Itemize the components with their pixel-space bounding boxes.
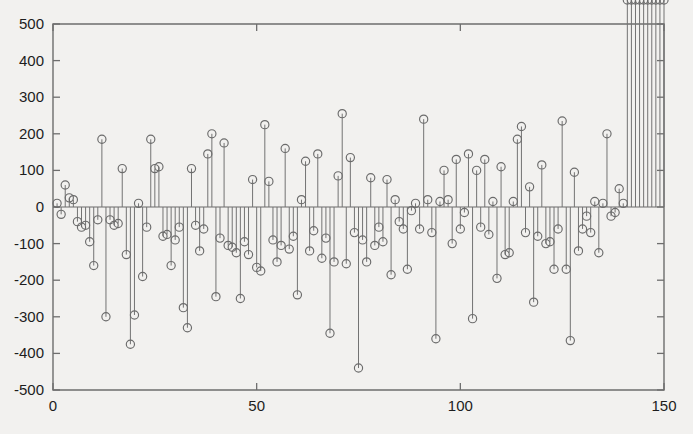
y-tick-label: 300: [19, 88, 44, 105]
y-tick-label: 500: [19, 15, 44, 32]
y-tick-label: 0: [36, 198, 44, 215]
x-tick-label: 150: [651, 397, 676, 414]
y-tick-label: -100: [14, 235, 44, 252]
y-tick-label: 400: [19, 52, 44, 69]
x-tick-label: 100: [448, 397, 473, 414]
stem-plot-figure: -500-400-300-200-1000100200300400500 050…: [0, 0, 693, 434]
x-tick-label: 0: [49, 397, 57, 414]
y-tick-label: 200: [19, 125, 44, 142]
x-tick-label: 50: [248, 397, 265, 414]
y-tick-label: -400: [14, 344, 44, 361]
y-tick-label: -500: [14, 381, 44, 398]
y-tick-label: -300: [14, 308, 44, 325]
plot-canvas: -500-400-300-200-1000100200300400500 050…: [0, 0, 693, 434]
y-tick-label: -200: [14, 271, 44, 288]
y-tick-label: 100: [19, 161, 44, 178]
